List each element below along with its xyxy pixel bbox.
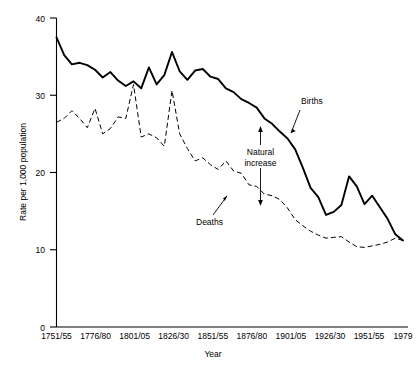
- births-deaths-line-chart: 40 30 20 10 0 1751/55 1776/80 1801/05 18…: [0, 0, 420, 372]
- y-axis-title: Rate per 1,000 population: [18, 123, 28, 221]
- y-axis-ticks: 40 30 20 10 0: [36, 14, 57, 333]
- births-arrow-head-icon: [291, 129, 296, 133]
- deaths-line: [57, 84, 404, 247]
- x-tick-label-1876-80: 1876/80: [236, 331, 267, 341]
- natural-increase-label-line2: increase: [244, 158, 276, 168]
- natural-increase-arrow-head-down-icon: [258, 200, 263, 206]
- x-tick-label-1826-30: 1826/30: [158, 331, 189, 341]
- chart-axes: [57, 18, 409, 327]
- y-tick-label-10: 10: [36, 245, 46, 255]
- data-series-group: [57, 37, 404, 247]
- births-line: [57, 37, 404, 240]
- natural-increase-arrow-head-up-icon: [258, 126, 263, 132]
- x-tick-label-1979: 1979: [394, 331, 413, 341]
- x-tick-label-1951-55: 1951/55: [354, 331, 385, 341]
- x-tick-label-1926-30: 1926/30: [315, 331, 346, 341]
- x-tick-label-1776-80: 1776/80: [80, 331, 111, 341]
- y-tick-label-30: 30: [36, 91, 46, 101]
- x-tick-label-1751-55: 1751/55: [41, 331, 72, 341]
- y-tick-label-20: 20: [36, 168, 46, 178]
- annotations-group: Births Deaths Natural increase: [196, 96, 323, 227]
- natural-increase-label-line1: Natural: [247, 147, 275, 157]
- births-annotation-label: Births: [301, 96, 323, 106]
- deaths-annotation-label: Deaths: [196, 217, 223, 227]
- x-tick-label-1851-55: 1851/55: [197, 331, 228, 341]
- x-tick-label-1801-05: 1801/05: [119, 331, 150, 341]
- chart-svg: 40 30 20 10 0 1751/55 1776/80 1801/05 18…: [0, 0, 420, 372]
- x-tick-label-1901-05: 1901/05: [276, 331, 307, 341]
- x-axis-ticks: 1751/55 1776/80 1801/05 1826/30 1851/55 …: [41, 331, 413, 341]
- x-axis-title: Year: [204, 349, 221, 359]
- y-tick-label-40: 40: [36, 14, 46, 24]
